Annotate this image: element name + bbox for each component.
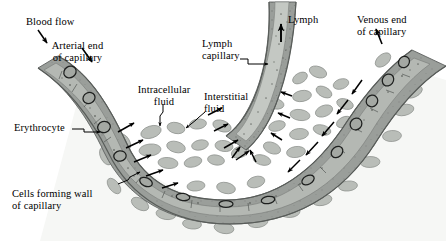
label-erythrocyte: Erythrocyte (14, 122, 65, 134)
label-interstitial-fluid: Interstitial fluid (204, 91, 248, 115)
label-arterial-end: Arterial end of capillary (25, 40, 130, 64)
lymph-capillary-leader (240, 59, 268, 64)
label-venous-end: Venous end of capillary (357, 14, 407, 38)
label-lymph: Lymph (288, 14, 318, 26)
lymph-capillary-vessel (226, 2, 296, 150)
label-lymph-capillary: Lymph capillary (202, 38, 240, 62)
label-blood-flow: Blood flow (26, 16, 75, 28)
label-intracellular-fluid: Intracellular fluid (120, 84, 208, 108)
capillary-exchange-diagram: Blood flow Arterial end of capillary Ery… (0, 0, 446, 241)
label-cells-forming-wall: Cells forming wall of capillary (12, 188, 93, 212)
